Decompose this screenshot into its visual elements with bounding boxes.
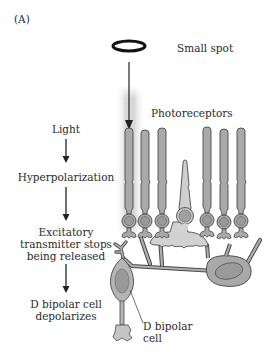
- retina-diagram: [0, 0, 270, 352]
- cone-photoreceptor: [177, 160, 194, 230]
- flow-arrow-icon: [63, 264, 70, 293]
- rod-photoreceptor: [155, 128, 169, 238]
- flow-arrow-icon: [63, 187, 70, 221]
- d-bipolar-cell: [110, 242, 133, 341]
- small-spot-icon: [113, 41, 145, 51]
- rod-photoreceptor: [234, 128, 248, 238]
- horizontal-cell: [206, 244, 251, 286]
- flow-arrow-icon: [63, 139, 70, 163]
- d-bipolar-leader-line: [130, 290, 143, 323]
- rod-photoreceptor: [200, 127, 214, 237]
- rod-photoreceptor: [217, 129, 231, 239]
